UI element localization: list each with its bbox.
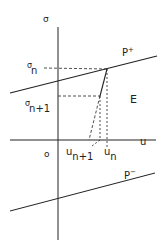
origin-label: o xyxy=(44,149,50,159)
p-minus-line xyxy=(10,173,155,211)
sigma-n-label: σn xyxy=(27,61,37,76)
p-plus-label: P+ xyxy=(122,46,134,58)
return-mapping-diagram: σ u o P+ P− E σn σn+1 un+1 un xyxy=(0,0,167,249)
sigma-n1-label: σn+1 xyxy=(25,99,50,114)
u-n1-label: un+1 xyxy=(66,146,93,162)
sigma-n-guide xyxy=(44,68,107,69)
u-n-label: un xyxy=(104,146,117,162)
elastic-unload-line xyxy=(89,96,100,140)
return-path xyxy=(100,69,107,96)
p-minus-label: P− xyxy=(124,168,136,181)
sigma-axis-label: σ xyxy=(43,14,49,24)
region-e-label: E xyxy=(130,93,137,106)
u-n1-pointer xyxy=(92,140,100,146)
u-axis-label: u xyxy=(140,136,146,147)
